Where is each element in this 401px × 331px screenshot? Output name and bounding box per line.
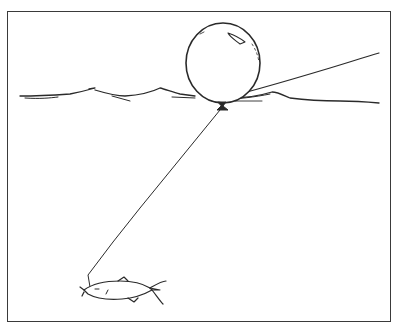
fish (80, 277, 166, 304)
tether-line (88, 110, 220, 287)
illustration (0, 0, 401, 331)
balloon (186, 23, 260, 103)
drawing (0, 0, 401, 331)
